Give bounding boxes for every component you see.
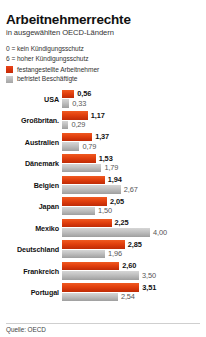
value-label-permanent: 2,05 [110,197,124,206]
bar-group: 1,170,29 [62,110,200,132]
legend-label-temporary: befristet Beschäftigte [17,74,77,83]
bar-line-permanent: 2,60 [62,262,200,270]
page-subtitle: in ausgewählten OECD-Ländern [6,28,200,37]
bar-temporary [62,228,150,236]
footer-divider [6,323,200,324]
legend-swatch-permanent-icon [6,66,13,73]
chart-infographic: Arbeitnehmerrechte in ausgewählten OECD-… [0,0,206,337]
bar-group: 3,512,54 [62,282,200,304]
value-label-permanent: 1,53 [99,154,113,163]
scale-notes: 0 = kein Kündigungsschutz 6 = hoher Künd… [6,44,200,63]
chart-row: Mexiko2,254,00 [6,218,200,240]
bar-line-permanent: 1,94 [62,176,200,184]
bar-line-permanent: 1,53 [62,154,200,162]
category-label: Japan [6,203,62,211]
bar-line-permanent: 2,85 [62,240,200,248]
category-label: Mexiko [6,225,62,233]
value-label-temporary: 4,00 [153,228,167,237]
bar-line-permanent: 0,56 [62,90,200,98]
bar-temporary [62,164,101,172]
bar-permanent [62,219,112,227]
category-label: Großbritan. [6,117,62,125]
chart-row: Portugal3,512,54 [6,282,200,304]
value-label-permanent: 0,56 [77,89,91,98]
bar-line-permanent: 1,37 [62,133,200,141]
category-label: Portugal [6,289,62,297]
chart-row: Großbritan.1,170,29 [6,110,200,132]
bar-temporary [62,121,68,129]
chart-row: Dänemark1,531,79 [6,153,200,175]
bar-group: 2,603,50 [62,261,200,283]
source-note: Quelle: OECD [6,326,46,333]
value-label-temporary: 3,50 [142,271,156,280]
value-label-temporary: 1,79 [104,163,118,172]
bar-line-temporary: 1,50 [62,207,200,215]
value-label-temporary: 0,33 [72,99,86,108]
value-label-permanent: 1,37 [95,132,109,141]
value-label-temporary: 1,96 [108,249,122,258]
bar-group: 1,531,79 [62,153,200,175]
bar-permanent [62,176,105,184]
bar-line-temporary: 2,67 [62,185,200,193]
category-label: Dänemark [6,160,62,168]
bar-group: 2,851,96 [62,239,200,261]
value-label-temporary: 0,29 [71,120,85,129]
value-label-permanent: 2,25 [115,218,129,227]
chart-legend: festangestellte Arbeitnehmer befristet B… [6,65,200,83]
bar-line-temporary: 1,79 [62,164,200,172]
chart-row: Belgien1,942,67 [6,175,200,197]
bar-group: 1,942,67 [62,175,200,197]
legend-item-permanent: festangestellte Arbeitnehmer [6,65,200,74]
category-label: Frankreich [6,268,62,276]
bar-permanent [62,262,119,270]
bar-temporary [62,185,121,193]
value-label-temporary: 2,67 [124,185,138,194]
bar-group: 2,254,00 [62,218,200,240]
bar-line-temporary: 4,00 [62,228,200,236]
bar-line-temporary: 0,33 [62,99,200,107]
bar-permanent [62,111,88,119]
chart-row: Australien1,370,79 [6,132,200,154]
bar-group: 0,560,33 [62,89,200,111]
category-label: Australien [6,139,62,147]
value-label-permanent: 1,94 [108,175,122,184]
value-label-temporary: 2,54 [121,292,135,301]
scale-note-max: 6 = hoher Kündigungsschutz [6,54,200,64]
bar-line-permanent: 3,51 [62,283,200,291]
category-label: Belgien [6,182,62,190]
bar-line-permanent: 2,25 [62,219,200,227]
bar-line-temporary: 1,96 [62,250,200,258]
value-label-permanent: 2,60 [122,261,136,270]
bar-line-temporary: 2,54 [62,293,200,301]
value-label-permanent: 2,85 [128,240,142,249]
value-label-temporary: 0,79 [82,142,96,151]
legend-swatch-temporary-icon [6,76,13,83]
bar-permanent [62,154,96,162]
value-label-permanent: 1,17 [91,111,105,120]
legend-label-permanent: festangestellte Arbeitnehmer [17,65,99,74]
page-title: Arbeitnehmerrechte [6,13,200,27]
bar-permanent [62,240,125,248]
bar-line-temporary: 0,29 [62,121,200,129]
bar-temporary [62,207,95,215]
scale-note-min: 0 = kein Kündigungsschutz [6,44,200,54]
category-label: Deutschland [6,246,62,254]
bar-temporary [62,142,79,150]
chart-row: Japan2,051,50 [6,196,200,218]
chart-row: Frankreich2,603,50 [6,261,200,283]
bar-chart: USA0,560,33Großbritan.1,170,29Australien… [6,89,200,304]
legend-item-temporary: befristet Beschäftigte [6,74,200,83]
bar-temporary [62,271,139,279]
bar-line-temporary: 3,50 [62,271,200,279]
bar-group: 1,370,79 [62,132,200,154]
bar-temporary [62,250,105,258]
bar-permanent [62,133,92,141]
category-label: USA [6,96,62,104]
bar-line-permanent: 2,05 [62,197,200,205]
bar-temporary [62,99,69,107]
bar-temporary [62,293,118,301]
bar-permanent [62,197,107,205]
bar-permanent [62,90,74,98]
value-label-permanent: 3,51 [142,283,156,292]
chart-row: Deutschland2,851,96 [6,239,200,261]
